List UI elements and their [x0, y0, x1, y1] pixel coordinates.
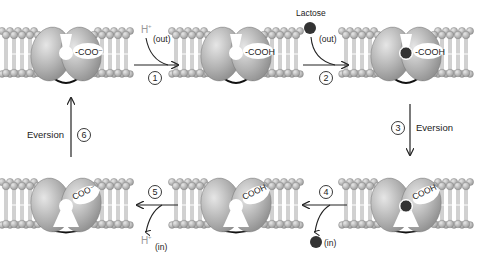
lipid-head — [350, 220, 358, 228]
lipid-head — [358, 31, 366, 39]
lipid-head — [2, 31, 10, 39]
lipid-head — [366, 69, 374, 77]
lipid-head — [342, 182, 350, 190]
lipid-head — [462, 31, 470, 39]
lipid-head — [268, 31, 276, 39]
lipid-head — [454, 31, 462, 39]
lipid-head — [10, 31, 18, 39]
lipid-head — [276, 182, 284, 190]
lipid-head — [454, 182, 462, 190]
lipid-head — [10, 220, 18, 228]
lipid-head — [268, 182, 276, 190]
binding-site — [229, 199, 243, 213]
lipid-head — [2, 69, 10, 77]
lipid-head — [172, 182, 180, 190]
lipid-head — [2, 182, 10, 190]
lactose-molecule-out — [304, 22, 316, 34]
lipid-head — [350, 31, 358, 39]
lipid-head — [106, 69, 114, 77]
lipid-head — [106, 220, 114, 228]
step-3-number: 3 — [395, 123, 400, 133]
lipid-head — [438, 182, 446, 190]
lipid-head — [276, 69, 284, 77]
lipid-head — [284, 220, 292, 228]
lipid-head — [196, 220, 204, 228]
lipid-head — [114, 69, 122, 77]
lipid-head — [188, 31, 196, 39]
lipid-head — [292, 220, 300, 228]
lipid-head — [284, 69, 292, 77]
lipid-head — [114, 220, 122, 228]
lipid-head — [284, 182, 292, 190]
lipid-head — [366, 220, 374, 228]
lipid-head — [180, 220, 188, 228]
step-4-number: 4 — [323, 187, 328, 197]
step-1-number: 1 — [152, 73, 157, 83]
eversion-label-right: Eversion — [416, 122, 453, 133]
lipid-head — [358, 220, 366, 228]
lipid-head — [342, 31, 350, 39]
lipid-head — [122, 182, 130, 190]
lipid-head — [180, 69, 188, 77]
lipid-head — [188, 182, 196, 190]
binding-site — [59, 46, 73, 60]
side-label-out-1: (out) — [153, 34, 171, 44]
lipid-head — [366, 182, 374, 190]
lipid-head — [106, 182, 114, 190]
lipid-head — [180, 182, 188, 190]
lipid-head — [350, 69, 358, 77]
lipid-head — [18, 31, 26, 39]
lipid-head — [454, 69, 462, 77]
lipid-head — [122, 220, 130, 228]
lipid-head — [114, 31, 122, 39]
lipid-head — [454, 220, 462, 228]
lipid-head — [462, 182, 470, 190]
step-5-number: 5 — [152, 187, 157, 197]
lipid-head — [438, 220, 446, 228]
lipid-head — [342, 220, 350, 228]
lipid-head — [172, 31, 180, 39]
lipid-head — [446, 31, 454, 39]
lipid-head — [98, 182, 106, 190]
lipid-head — [172, 220, 180, 228]
step-2-number: 2 — [323, 73, 328, 83]
lipid-head — [98, 31, 106, 39]
lipid-head — [10, 182, 18, 190]
lipid-head — [446, 182, 454, 190]
transporter-state-s3: -COOH — [338, 24, 473, 83]
eversion-label-left: Eversion — [27, 129, 64, 140]
side-label-in-5: (in) — [155, 242, 167, 252]
lipid-head — [350, 182, 358, 190]
lipid-head — [26, 220, 34, 228]
transporter-state-s5: COOH — [168, 175, 303, 234]
lactose-bound — [400, 47, 412, 59]
lipid-head — [180, 31, 188, 39]
lipid-head — [196, 182, 204, 190]
lipid-head — [462, 220, 470, 228]
carboxyl-group-label: -COOH — [245, 47, 275, 57]
carboxyl-group-label: -COOH — [415, 47, 445, 57]
transporter-state-s6: COO⁻ — [0, 175, 134, 234]
lipid-head — [276, 31, 284, 39]
lipid-head — [26, 31, 34, 39]
step-6-number: 6 — [81, 130, 86, 140]
proton-charge: + — [148, 23, 152, 29]
lipid-head — [196, 31, 204, 39]
transporter-state-s4: COOH — [338, 175, 473, 234]
transporter-state-s1: -COO⁻ — [0, 24, 134, 83]
lipid-head — [462, 69, 470, 77]
lipid-head — [196, 69, 204, 77]
transport-cycle-diagram: -COO⁻-COOH-COOHCOOHCOOHCOO⁻ H+(out)1Lact… — [0, 0, 479, 265]
transporter-state-s2: -COOH — [168, 24, 303, 83]
binding-site — [229, 46, 243, 60]
lipid-head — [268, 69, 276, 77]
lipid-head — [292, 31, 300, 39]
lipid-head — [358, 69, 366, 77]
lipid-head — [10, 69, 18, 77]
lipid-head — [342, 69, 350, 77]
lipid-head — [438, 69, 446, 77]
lipid-head — [292, 69, 300, 77]
carboxyl-group-label: -COO⁻ — [75, 47, 104, 57]
lipid-head — [276, 220, 284, 228]
lipid-head — [122, 69, 130, 77]
